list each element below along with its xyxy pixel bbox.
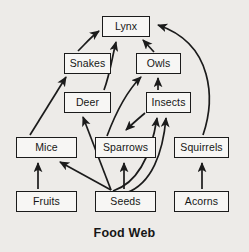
node-snakes[interactable]: Snakes (64, 53, 111, 74)
edge-sparrows-to-owls (107, 77, 141, 136)
node-squirrels[interactable]: Squirrels (174, 137, 229, 158)
node-deer[interactable]: Deer (64, 92, 111, 113)
node-owls[interactable]: Owls (136, 53, 181, 74)
node-label-mice: Mice (35, 142, 58, 153)
node-label-insects: Insects (152, 97, 186, 108)
diagram-title: Food Web (0, 226, 249, 240)
node-mice[interactable]: Mice (16, 137, 77, 158)
node-label-fruits: Fruits (33, 196, 60, 207)
edge-owls-to-lynx (143, 40, 154, 52)
node-insects[interactable]: Insects (146, 92, 191, 113)
edge-mice-to-snakes (30, 77, 66, 135)
node-lynx[interactable]: Lynx (102, 16, 150, 37)
node-label-sparrows: Sparrows (103, 142, 148, 153)
edge-insects-to-sparrows (126, 113, 145, 130)
node-label-deer: Deer (76, 97, 99, 108)
node-sparrows[interactable]: Sparrows (95, 137, 156, 158)
edge-seeds-to-mice (60, 162, 111, 190)
node-fruits[interactable]: Fruits (16, 191, 77, 212)
node-label-snakes: Snakes (70, 58, 106, 69)
edge-snakes-to-lynx (78, 31, 99, 51)
node-label-owls: Owls (147, 58, 171, 69)
node-label-acorns: Acorns (185, 196, 218, 207)
node-label-squirrels: Squirrels (180, 142, 222, 153)
food-web-diagram: Lynx Snakes Owls Deer Insects Mice Sparr… (0, 0, 249, 252)
edge-layer (0, 0, 249, 252)
node-seeds[interactable]: Seeds (95, 191, 156, 212)
node-label-lynx: Lynx (115, 21, 137, 32)
node-label-seeds: Seeds (110, 196, 140, 207)
node-acorns[interactable]: Acorns (174, 191, 229, 212)
